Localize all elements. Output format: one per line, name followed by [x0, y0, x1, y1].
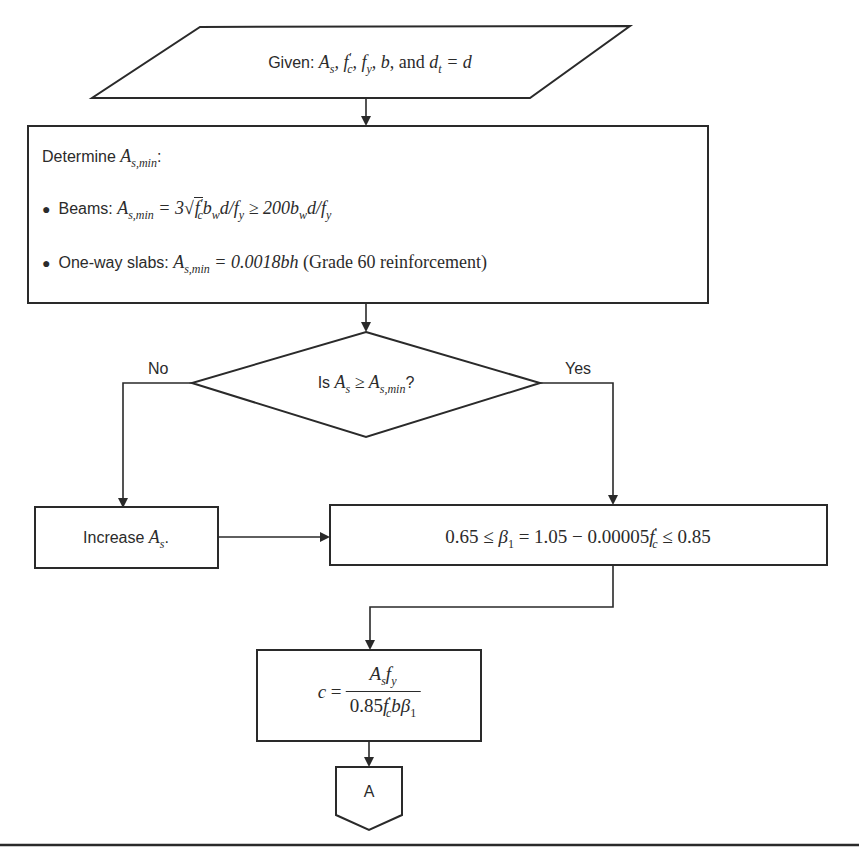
slabs-note: (Grade 60 reinforcement): [303, 252, 487, 272]
input-label: Given: As, f′c, fy, b, and dt = d: [268, 50, 472, 77]
bullet-icon: ●: [42, 255, 50, 271]
arrowhead-icon: [365, 640, 375, 650]
increase-label: Increase As.: [83, 527, 169, 552]
arrowhead-icon: [320, 532, 330, 542]
bullet-slabs: ●One-way slabs: As,min = 0.0018bh (Grade…: [42, 252, 487, 277]
slabs-formula: As,min = 0.0018bh: [173, 252, 298, 272]
bullet-icon: ●: [42, 201, 50, 217]
arrowhead-icon: [361, 116, 371, 126]
determine-title: Determine As,min:: [42, 146, 161, 171]
input-prefix: Given:: [268, 54, 319, 71]
arrowhead-icon: [364, 757, 374, 767]
connector-beta-to-c: [370, 565, 613, 642]
flowchart-canvas: [0, 0, 859, 852]
arrowhead-icon: [608, 495, 618, 505]
bullet-beams-label: Beams:: [58, 200, 117, 217]
c-formula: c = Asfy0.85f′cbβ1: [318, 663, 421, 721]
no-label: No: [148, 360, 168, 378]
beta-formula: 0.65 ≤ β1 = 1.05 − 0.00005f′c ≤ 0.85: [445, 525, 711, 552]
arrowhead-icon: [361, 322, 371, 332]
yes-label: Yes: [565, 360, 591, 378]
decision-label: Is As ≥ As,min?: [318, 372, 415, 397]
input-math: As, f′c, fy, b, and dt = d: [319, 52, 472, 72]
bullet-beams: ●Beams: As,min = 3√f′cbwd/fy ≥ 200bwd/fy: [42, 196, 331, 223]
connector-no-branch: [123, 383, 192, 500]
connector-yes-branch: [540, 383, 613, 497]
beams-formula: As,min = 3√f′cbwd/fy ≥ 200bwd/fy: [117, 198, 331, 218]
offpage-connector-label: A: [364, 783, 375, 801]
bullet-slabs-label: One-way slabs:: [58, 254, 173, 271]
